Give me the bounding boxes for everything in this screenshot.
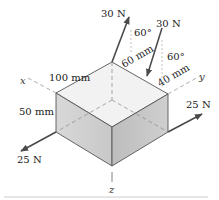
axis-label-x: x [20,75,26,86]
angle-label-60-2: 60° [167,51,185,62]
axis-label-y: y [198,71,205,82]
force-25n-right-arrow [168,114,202,132]
force-label-25n-left: 25 N [17,154,42,165]
axis-label-z: z [108,184,115,195]
angle-label-60-1: 60° [134,27,152,38]
force-label-30n-2: 30 N [156,18,181,29]
dim-label-100mm: 100 mm [49,72,91,83]
force-label-25n-right: 25 N [186,99,211,110]
force-25n-left-arrow [21,132,56,151]
force-label-30n-1: 30 N [101,8,126,19]
block-force-diagram: 30 N 60° 30 N 60° 60 mm 40 mm y 100 mm x… [0,0,219,200]
dim-label-50mm: 50 mm [19,106,54,117]
dim-label-40mm: 40 mm [156,62,192,89]
